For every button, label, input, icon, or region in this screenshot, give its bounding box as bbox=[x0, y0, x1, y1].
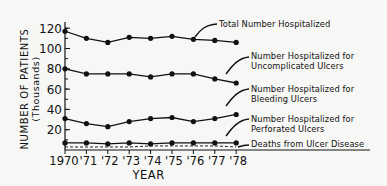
x-tick-label: '75 bbox=[165, 154, 183, 168]
data-point bbox=[169, 140, 174, 145]
label-uncomplicated: Number Hospitalized for Uncomplicated Ul… bbox=[251, 52, 354, 71]
data-point bbox=[84, 36, 89, 41]
arrow-total bbox=[195, 24, 217, 37]
data-point bbox=[105, 124, 110, 129]
y-tick-label: 40 bbox=[47, 103, 62, 117]
data-point bbox=[105, 71, 110, 76]
label-deaths-line1: Deaths from Ulcer Disease bbox=[251, 140, 364, 150]
y-axis-unit: (Thousands) bbox=[30, 14, 41, 164]
data-point bbox=[212, 76, 217, 81]
data-point bbox=[191, 119, 196, 124]
x-tick-label: '71 bbox=[80, 154, 98, 168]
data-point bbox=[212, 140, 217, 145]
arrow-deaths bbox=[238, 145, 249, 147]
data-point bbox=[234, 40, 239, 45]
arrow-bleeding bbox=[226, 89, 249, 106]
data-point bbox=[148, 74, 153, 79]
x-tick-label: '74 bbox=[144, 154, 162, 168]
label-perforated: Number Hospitalized for Perforated Ulcer… bbox=[251, 115, 354, 134]
data-point bbox=[169, 71, 174, 76]
x-tick-label: '72 bbox=[101, 154, 119, 168]
data-point bbox=[84, 121, 89, 126]
label-bleeding: Number Hospitalized for Bleeding Ulcers bbox=[251, 85, 354, 104]
data-point bbox=[191, 37, 196, 42]
data-point bbox=[191, 71, 196, 76]
y-axis-title: NUMBER OF PATIENTS (Thousands) bbox=[19, 14, 41, 164]
data-point bbox=[84, 71, 89, 76]
label-bleeding-line2: Bleeding Ulcers bbox=[251, 95, 354, 105]
data-point bbox=[62, 116, 67, 121]
y-axis-label: NUMBER OF PATIENTS bbox=[19, 28, 30, 149]
line-chart: 204060801001201970'71'72'73'74'75'76'77'… bbox=[0, 0, 387, 186]
data-point bbox=[212, 38, 217, 43]
x-tick-label: '78 bbox=[229, 154, 247, 168]
data-point bbox=[127, 71, 132, 76]
x-tick-label: 1970 bbox=[49, 154, 78, 168]
data-point bbox=[62, 66, 67, 71]
data-point bbox=[62, 140, 67, 145]
x-axis-title: YEAR bbox=[132, 168, 165, 182]
data-point bbox=[127, 35, 132, 40]
data-point bbox=[105, 40, 110, 45]
data-point bbox=[127, 119, 132, 124]
x-tick-label: '77 bbox=[208, 154, 226, 168]
arrow-perforated bbox=[226, 119, 249, 136]
data-point bbox=[169, 34, 174, 39]
label-deaths: Deaths from Ulcer Disease bbox=[251, 140, 364, 150]
label-total: Total Number Hospitalized bbox=[219, 20, 330, 30]
y-tick-label: 120 bbox=[39, 22, 62, 36]
y-tick-label: 100 bbox=[39, 42, 62, 56]
data-point bbox=[212, 116, 217, 121]
data-point bbox=[148, 116, 153, 121]
data-point bbox=[148, 36, 153, 41]
data-point bbox=[234, 112, 239, 117]
label-perforated-line2: Perforated Ulcers bbox=[251, 125, 354, 135]
data-point bbox=[169, 115, 174, 120]
data-point bbox=[127, 140, 132, 145]
arrow-uncomplicated bbox=[226, 57, 249, 74]
label-uncomplicated-line2: Uncomplicated Ulcers bbox=[251, 62, 354, 72]
x-tick-label: '76 bbox=[187, 154, 205, 168]
x-tick-label: '73 bbox=[122, 154, 140, 168]
y-tick-label: 20 bbox=[47, 123, 62, 137]
y-tick-label: 60 bbox=[47, 83, 62, 97]
data-point bbox=[62, 29, 67, 34]
data-point bbox=[191, 140, 196, 145]
y-tick-label: 80 bbox=[47, 62, 62, 76]
data-point bbox=[234, 80, 239, 85]
data-point bbox=[234, 140, 239, 145]
label-total-line1: Total Number Hospitalized bbox=[219, 20, 330, 30]
data-point bbox=[105, 141, 110, 146]
data-point bbox=[84, 140, 89, 145]
